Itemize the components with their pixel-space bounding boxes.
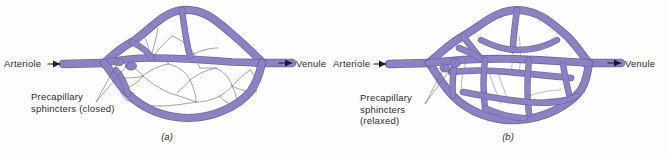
panel-caption-b: (b) xyxy=(502,131,514,142)
precapillary-sphincter-label-a-line2: sphincters (closed) xyxy=(31,103,115,115)
precapillary-sphincter-label-a-line1: Precapillary xyxy=(31,91,115,103)
thoroughfare-channel-mid-a xyxy=(104,58,262,63)
capillary-branch-b-8 xyxy=(528,60,530,114)
precapillary-sphincter-label-b-line1: Precapillary xyxy=(360,92,412,104)
panel-b-relaxed-sphincters: Arteriole Venule Precapillary sphincters… xyxy=(333,0,667,154)
precapillary-sphincter-label-b-line2: sphincters xyxy=(360,104,412,116)
arteriole-flow-arrow-a xyxy=(48,60,60,67)
precapillary-sphincter-node-a-1 xyxy=(126,62,137,70)
capillary-branch-b-2 xyxy=(513,10,517,50)
arteriole-label-a: Arteriole xyxy=(4,58,41,70)
panel-caption-a: (a) xyxy=(161,131,173,142)
precapillary-sphincter-node-b-2 xyxy=(440,64,450,72)
arteriole-flow-arrow-b xyxy=(374,60,386,67)
venule-label-b: Venule xyxy=(625,58,655,70)
capillary-branch-b-5 xyxy=(451,71,571,79)
capillary-branch-b-3 xyxy=(481,40,557,50)
capillary-branch-b-7 xyxy=(484,60,486,108)
panel-b-vessel-diagram xyxy=(333,0,667,154)
precapillary-sphincter-label-b: Precapillary sphincters (relaxed) xyxy=(360,92,412,127)
capillary-branch-b-10 xyxy=(463,92,577,103)
precapillary-sphincter-label-b-line3: (relaxed) xyxy=(360,115,412,127)
arteriole-vessel-a xyxy=(63,63,104,64)
arteriole-vessel-b xyxy=(389,63,429,64)
arteriole-label-b: Arteriole xyxy=(333,58,370,70)
capillary-branch-b-9 xyxy=(563,64,569,94)
panel-a-closed-sphincters: Arteriole Venule Precapillary sphincters… xyxy=(0,0,334,154)
capillary-bed-figure: Arteriole Venule Precapillary sphincters… xyxy=(0,0,667,154)
venule-label-a: Venule xyxy=(296,58,326,70)
capillary-branch-upper-right-a xyxy=(182,10,190,56)
precapillary-sphincter-label-a: Precapillary sphincters (closed) xyxy=(31,91,115,114)
